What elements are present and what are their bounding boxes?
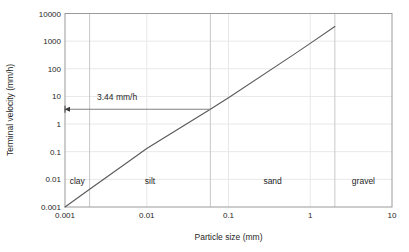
y-axis-tick-label: 0.01 — [45, 175, 61, 184]
x-axis-title: Particle size (mm) — [194, 232, 262, 242]
zone-label-silt: silt — [145, 176, 156, 186]
x-axis-tick-label: 0.001 — [55, 211, 76, 220]
y-axis-tick-label: 0.001 — [41, 203, 62, 212]
zone-label-clay: clay — [70, 176, 86, 186]
zone-label-sand: sand — [263, 176, 282, 186]
x-axis-tick-labels: 0.0010.010.1110 — [55, 211, 397, 220]
x-axis-tick-label: 10 — [388, 211, 397, 220]
y-axis-tick-label: 1000 — [43, 37, 61, 46]
annotation-label: 3.44 mm/h — [97, 92, 137, 102]
chart-container: 0.0010.010.1110 1000010001001010.10.010.… — [0, 0, 409, 252]
y-axis-tick-label: 0.1 — [50, 148, 62, 157]
zone-label-gravel: gravel — [352, 176, 375, 186]
x-axis-tick-label: 1 — [308, 211, 313, 220]
terminal-velocity-vs-particle-size-chart: 0.0010.010.1110 1000010001001010.10.010.… — [0, 0, 409, 252]
y-axis-tick-labels: 1000010001001010.10.010.001 — [39, 10, 62, 213]
y-axis-tick-label: 100 — [48, 65, 62, 74]
y-axis-tick-label: 10 — [52, 92, 61, 101]
y-axis-tick-label: 10000 — [39, 10, 62, 19]
y-axis-title: Terminal velocity (mm/h) — [5, 64, 15, 156]
x-axis-tick-label: 0.1 — [223, 211, 235, 220]
x-axis-tick-label: 0.01 — [139, 211, 155, 220]
y-axis-tick-label: 1 — [57, 120, 62, 129]
